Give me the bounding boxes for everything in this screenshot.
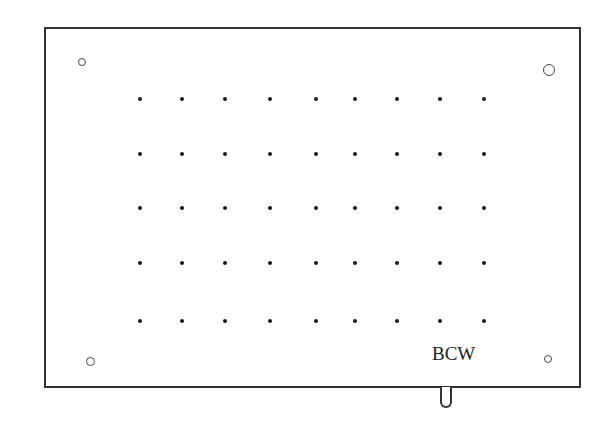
diagram-canvas: BCW [0, 0, 616, 431]
grid-dot [180, 97, 184, 101]
grid-dot [482, 319, 486, 323]
grid-dot [353, 261, 357, 265]
grid-dot [482, 152, 486, 156]
grid-dot [138, 152, 142, 156]
grid-dot [138, 319, 142, 323]
grid-dot [223, 261, 227, 265]
grid-dot [353, 97, 357, 101]
mounting-hole-bottom-right [544, 355, 552, 363]
board-outline [44, 27, 581, 388]
grid-dot [268, 152, 272, 156]
grid-dot [395, 261, 399, 265]
grid-dot [395, 97, 399, 101]
grid-dot [314, 261, 318, 265]
grid-dot [223, 152, 227, 156]
grid-dot [314, 206, 318, 210]
mounting-hole-top-right [543, 64, 555, 76]
mounting-hole-top-left [78, 58, 86, 66]
grid-dot [314, 97, 318, 101]
grid-dot [223, 97, 227, 101]
grid-dot [482, 206, 486, 210]
grid-dot [353, 152, 357, 156]
grid-dot [438, 261, 442, 265]
grid-dot [223, 206, 227, 210]
grid-dot [438, 97, 442, 101]
grid-dot [180, 319, 184, 323]
grid-dot [268, 97, 272, 101]
board-label: BCW [432, 343, 475, 365]
mounting-hole-bottom-left [86, 357, 95, 366]
grid-dot [395, 206, 399, 210]
grid-dot [438, 152, 442, 156]
grid-dot [180, 206, 184, 210]
grid-dot [395, 319, 399, 323]
grid-dot [353, 206, 357, 210]
grid-dot [395, 152, 399, 156]
bottom-tab [440, 387, 452, 408]
grid-dot [138, 206, 142, 210]
grid-dot [438, 319, 442, 323]
grid-dot [314, 152, 318, 156]
grid-dot [314, 319, 318, 323]
grid-dot [268, 261, 272, 265]
grid-dot [482, 97, 486, 101]
grid-dot [138, 97, 142, 101]
grid-dot [482, 261, 486, 265]
grid-dot [223, 319, 227, 323]
grid-dot [438, 206, 442, 210]
grid-dot [180, 261, 184, 265]
grid-dot [353, 319, 357, 323]
grid-dot [268, 206, 272, 210]
grid-dot [180, 152, 184, 156]
grid-dot [138, 261, 142, 265]
grid-dot [268, 319, 272, 323]
